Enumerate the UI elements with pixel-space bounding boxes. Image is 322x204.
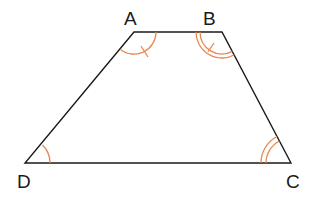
vertex-label-a: A <box>124 8 137 29</box>
angle-mark-c <box>261 137 279 164</box>
vertex-label-c: C <box>286 171 300 192</box>
trapezium-shape <box>25 32 291 163</box>
vertex-label-b: B <box>203 8 216 29</box>
vertex-label-d: D <box>17 171 31 192</box>
angle-mark-a <box>121 32 157 57</box>
angle-mark-d <box>43 145 51 163</box>
trapezium-diagram: A B C D <box>0 0 322 204</box>
